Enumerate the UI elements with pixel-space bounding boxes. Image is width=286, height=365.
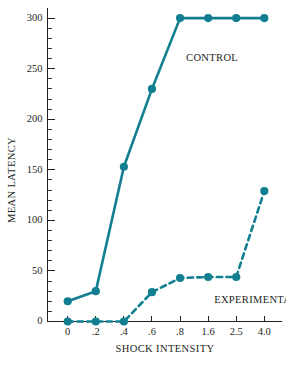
- data-point-control-0: [64, 297, 72, 305]
- data-point-experimental-6: [232, 273, 240, 281]
- chart-canvas: 050100150200250300 0.2.4.6.81.62.54.0 CO…: [0, 0, 286, 365]
- x-tick-label: .4: [120, 326, 129, 337]
- data-point-experimental-2: [120, 317, 128, 325]
- x-axis-title: SHOCK INTENSITY: [115, 343, 214, 354]
- x-tick-label: .6: [148, 326, 156, 337]
- y-tick-label: 200: [27, 113, 43, 124]
- y-tick-label: 0: [37, 315, 42, 326]
- x-tick-label: .2: [92, 326, 100, 337]
- y-tick-label: 150: [27, 164, 43, 175]
- data-point-experimental-5: [204, 273, 212, 281]
- x-tick-label: 2.5: [230, 326, 243, 337]
- data-point-control-6: [232, 14, 240, 22]
- data-point-control-7: [260, 14, 268, 22]
- annotation-group: CONTROL EXPERIMENTAL: [186, 52, 286, 306]
- x-tick-label: 4.0: [258, 326, 271, 337]
- data-point-experimental-1: [92, 317, 100, 325]
- data-point-control-5: [204, 14, 212, 22]
- y-tick-label: 250: [27, 63, 43, 74]
- series-label-control: CONTROL: [186, 52, 238, 63]
- y-tick-label: 100: [27, 214, 43, 225]
- y-axis-tick-labels: 050100150200250300: [27, 12, 43, 326]
- x-tick-label: 1.6: [202, 326, 215, 337]
- series-label-experimental: EXPERIMENTAL: [214, 294, 286, 305]
- y-tick-label: 50: [32, 265, 43, 276]
- data-point-experimental-4: [176, 274, 184, 282]
- data-point-experimental-7: [260, 187, 268, 195]
- data-point-experimental-0: [64, 317, 72, 325]
- data-point-experimental-3: [148, 288, 156, 296]
- y-axis-title: MEAN LATENCY: [6, 137, 17, 223]
- data-point-control-2: [120, 163, 128, 171]
- data-point-control-3: [148, 85, 156, 93]
- data-point-control-4: [176, 14, 184, 22]
- y-axis-major-ticks: [48, 18, 55, 321]
- y-axis-group: 050100150200250300: [27, 8, 55, 326]
- y-tick-label: 300: [27, 12, 43, 23]
- data-point-control-1: [92, 287, 100, 295]
- chart-figure: 050100150200250300 0.2.4.6.81.62.54.0 CO…: [0, 0, 286, 365]
- x-axis-tick-labels: 0.2.4.6.81.62.54.0: [65, 326, 271, 337]
- x-tick-label: .8: [176, 326, 184, 337]
- x-axis-group: 0.2.4.6.81.62.54.0: [48, 316, 283, 337]
- x-tick-label: 0: [65, 326, 70, 337]
